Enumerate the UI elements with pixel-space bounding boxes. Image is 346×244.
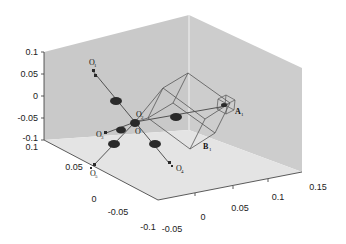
chart-3d: 0.1 0.05 0 -0.05 -0.1 0.1 0.05 0 -0.05 -… bbox=[0, 0, 346, 244]
label-o5-sub: 5 bbox=[95, 174, 98, 179]
x-tick-3: -0.05 bbox=[108, 207, 129, 217]
label-origin: O bbox=[135, 127, 141, 136]
y-tick-3: 0.1 bbox=[272, 192, 285, 202]
z-tick-3: -0.05 bbox=[17, 113, 38, 123]
y-tick-2: 0.05 bbox=[231, 203, 249, 213]
left-wall bbox=[44, 15, 189, 140]
z-tick-0: 0.1 bbox=[25, 47, 38, 57]
x-tick-1: 0.05 bbox=[65, 162, 83, 172]
x-tick-4: -0.1 bbox=[140, 222, 156, 232]
y-tick-4: 0.15 bbox=[309, 182, 327, 192]
z-tick-1: 0.05 bbox=[20, 69, 38, 79]
z-tick-2: 0 bbox=[33, 91, 38, 101]
y-tick-0: -0.05 bbox=[162, 224, 183, 234]
z-ticks bbox=[41, 52, 44, 140]
x-tick-0: 0.1 bbox=[25, 142, 38, 152]
x-tick-2: 0 bbox=[91, 194, 96, 204]
y-tick-1: 0 bbox=[200, 212, 205, 222]
